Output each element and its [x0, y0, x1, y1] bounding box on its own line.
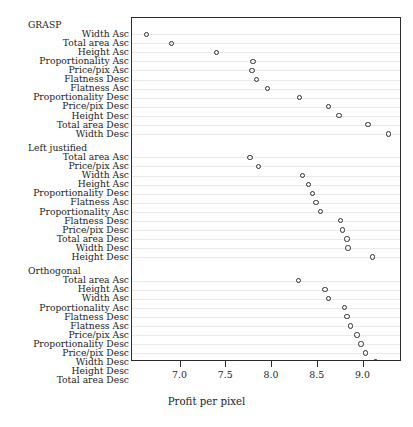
category-label: Width Desc: [76, 129, 129, 138]
gridline: [132, 290, 400, 291]
data-point: [340, 227, 345, 232]
gridline: [132, 299, 400, 300]
gridline: [132, 221, 400, 222]
gridline: [132, 116, 400, 117]
data-point: [326, 104, 331, 109]
data-point: [344, 314, 349, 319]
gridline: [132, 257, 400, 258]
gridline: [132, 52, 400, 53]
data-point: [336, 113, 341, 118]
gridline: [132, 34, 400, 35]
x-tick-label: 8.0: [264, 369, 279, 380]
data-point: [326, 296, 331, 301]
chart-figure: GRASPWidth AscTotal area AscHeight AscPr…: [0, 0, 413, 427]
data-point: [256, 164, 261, 169]
gridline: [132, 70, 400, 71]
gridline: [132, 98, 400, 99]
category-label: Height Desc: [72, 252, 129, 261]
data-point: [300, 173, 305, 178]
data-point: [370, 254, 375, 259]
data-point: [344, 236, 349, 241]
data-point: [363, 350, 368, 355]
gridline: [132, 317, 400, 318]
gridline: [132, 134, 400, 135]
data-point: [338, 218, 343, 223]
gridline: [132, 212, 400, 213]
gridline: [132, 203, 400, 204]
x-axis: 7.07.58.08.59.0: [131, 361, 401, 391]
x-tick-label: 9.0: [355, 369, 370, 380]
gridline: [132, 107, 400, 108]
gridline: [132, 353, 400, 354]
gridline: [132, 326, 400, 327]
data-point: [297, 95, 302, 100]
data-point: [358, 341, 363, 346]
data-point: [247, 155, 252, 160]
x-tick: [225, 361, 226, 367]
data-point: [214, 50, 219, 55]
data-point: [254, 77, 259, 82]
data-point: [318, 209, 323, 214]
gridline: [132, 166, 400, 167]
data-point: [386, 131, 391, 136]
gridline: [132, 281, 400, 282]
data-point: [310, 191, 315, 196]
gridline: [132, 176, 400, 177]
x-axis-title: Profit per pixel: [0, 396, 413, 407]
gridline: [132, 194, 400, 195]
x-tick: [271, 361, 272, 367]
data-point: [322, 287, 327, 292]
x-tick-label: 7.5: [218, 369, 233, 380]
gridline: [132, 230, 400, 231]
x-tick: [363, 361, 364, 367]
x-tick-label: 8.5: [309, 369, 324, 380]
gridline: [132, 308, 400, 309]
data-point: [306, 182, 311, 187]
data-point: [365, 122, 370, 127]
data-point: [250, 59, 255, 64]
data-point: [348, 323, 353, 328]
data-point: [342, 305, 347, 310]
data-point: [354, 332, 359, 337]
data-point: [144, 32, 149, 37]
data-point: [249, 68, 254, 73]
gridline: [132, 248, 400, 249]
data-point: [313, 200, 318, 205]
data-point: [345, 245, 350, 250]
x-tick: [180, 361, 181, 367]
x-tick-label: 7.0: [172, 369, 187, 380]
gridline: [132, 61, 400, 62]
gridline: [132, 125, 400, 126]
category-label: Total area Desc: [57, 375, 129, 384]
data-point: [265, 86, 270, 91]
gridline: [132, 185, 400, 186]
gridline: [132, 239, 400, 240]
data-point: [169, 41, 174, 46]
data-point: [296, 278, 301, 283]
gridline: [132, 157, 400, 158]
plot-panel: [131, 17, 401, 361]
gridline: [132, 80, 400, 81]
x-tick: [317, 361, 318, 367]
category-label-column: GRASPWidth AscTotal area AscHeight AscPr…: [0, 0, 131, 370]
